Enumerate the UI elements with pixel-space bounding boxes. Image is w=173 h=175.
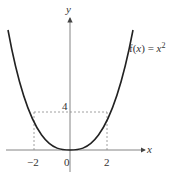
x-tick-2: 2 <box>104 156 110 168</box>
guide-lines <box>34 112 107 150</box>
parabola-chart: y x −2 0 2 4 f(x) = x2 <box>0 0 173 175</box>
x-tick-neg2: −2 <box>27 156 39 168</box>
x-tick-0: 0 <box>64 156 70 168</box>
y-axis-label: y <box>65 3 71 15</box>
x-axis-label: x <box>146 143 152 155</box>
y-tick-4: 4 <box>62 100 68 112</box>
function-label: f(x) = x2 <box>129 41 165 55</box>
parabola-curve <box>8 30 133 150</box>
